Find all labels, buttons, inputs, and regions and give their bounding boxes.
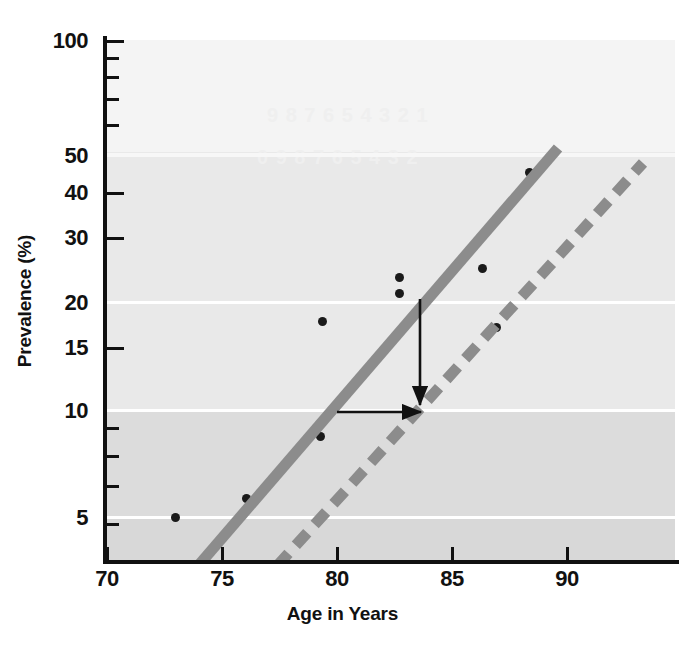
y-tick-100: [107, 40, 124, 43]
x-tick-70: [106, 547, 109, 561]
y-tick-30: [107, 237, 124, 240]
y-tick-9: [107, 427, 119, 430]
x-tick-75: [221, 547, 224, 561]
x-tick-85: [451, 547, 454, 561]
data-point: [525, 168, 534, 177]
gridline-10: [107, 409, 675, 412]
gridline-5: [107, 516, 675, 519]
ghost-text-line1: 9 8 7 6 5 4 3 2 1: [267, 104, 429, 127]
y-tick-label-40: 40: [42, 180, 88, 206]
y-tick-label-20: 20: [42, 290, 88, 316]
y-axis-title: Prevalence (%): [14, 121, 36, 481]
x-tick-label-85: 85: [422, 566, 482, 592]
x-tick-90: [566, 547, 569, 561]
x-tick-80: [336, 547, 339, 561]
gridline-20: [107, 301, 675, 304]
y-tick-6: [107, 523, 119, 526]
tone-band: [107, 517, 675, 560]
y-tick-label-30: 30: [42, 225, 88, 251]
data-point: [242, 494, 251, 503]
x-tick-label-70: 70: [77, 566, 137, 592]
data-point: [171, 513, 180, 522]
y-tick-80: [107, 76, 119, 79]
y-tick-40: [107, 192, 124, 195]
data-point: [395, 289, 404, 298]
x-tick-label-90: 90: [537, 566, 597, 592]
x-axis-line: [103, 560, 679, 564]
x-axis-title: Age in Years: [0, 603, 685, 625]
chart-figure: 9 8 7 6 5 4 3 2 1 0 9 8 7 6 5 4 3 2: [0, 0, 685, 651]
y-tick-label-50: 50: [42, 143, 88, 169]
data-point: [318, 317, 327, 326]
data-point: [395, 273, 404, 282]
data-point: [492, 323, 501, 332]
y-tick-label-15: 15: [42, 335, 88, 361]
tone-band: [107, 410, 675, 517]
x-tick-label-80: 80: [307, 566, 367, 592]
ghost-text-line2: 0 9 8 7 6 5 4 3 2: [257, 146, 419, 169]
y-tick-label-10: 10: [42, 398, 88, 424]
x-tick-label-75: 75: [192, 566, 252, 592]
tone-band: [107, 152, 675, 302]
plot-area: 9 8 7 6 5 4 3 2 1 0 9 8 7 6 5 4 3 2: [107, 40, 675, 560]
data-point: [316, 432, 325, 441]
tone-band: [107, 40, 675, 152]
y-tick-60: [107, 124, 119, 127]
y-tick-70: [107, 98, 119, 101]
tone-band: [107, 302, 675, 410]
y-tick-90: [107, 57, 119, 60]
y-tick-label-100: 100: [42, 28, 88, 54]
gridline-50: [107, 153, 675, 157]
y-tick-8: [107, 455, 119, 458]
y-tick-7: [107, 485, 119, 488]
y-tick-15: [107, 347, 124, 350]
y-tick-label-5: 5: [42, 505, 88, 531]
data-point: [478, 264, 487, 273]
